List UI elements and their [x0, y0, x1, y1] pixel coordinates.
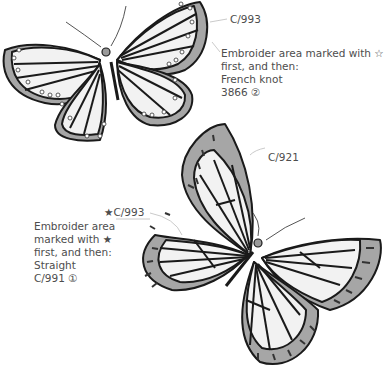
bottom-instruction-note: Embroider area marked with ★ first, and …: [34, 220, 115, 285]
bottom-color-label: C/921: [268, 151, 299, 164]
top-note-line-4: 3866 ②: [221, 86, 384, 99]
top-color-label: C/993: [230, 13, 261, 26]
bottom-note-line-2: marked with ★: [34, 233, 115, 246]
bottom-note-line-4: Straight: [34, 259, 115, 272]
top-note-line-2: first, and then:: [221, 60, 384, 73]
bottom-star-label: ★C/993: [104, 206, 144, 219]
top-butterfly: [4, 2, 227, 141]
bottom-note-line-1: Embroider area: [34, 220, 115, 233]
bottom-note-line-5: C/991 ①: [34, 272, 115, 285]
bottom-butterfly: [116, 124, 381, 364]
top-note-line-1: Embroider area marked with ☆: [221, 47, 384, 60]
bottom-note-line-3: first, and then:: [34, 246, 115, 259]
top-instruction-note: Embroider area marked with ☆ first, and …: [221, 47, 384, 99]
top-note-line-3: French knot: [221, 73, 384, 86]
